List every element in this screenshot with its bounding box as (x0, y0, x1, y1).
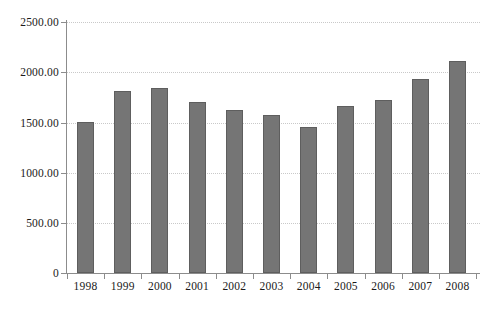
bar-chart: 2500.00 2000.00 1500.00 1000.00 500.00 0… (0, 0, 493, 312)
bar-2008 (449, 61, 466, 273)
x-tick-2003 (290, 274, 291, 279)
y-tick-1500 (61, 123, 67, 124)
bar-2003 (263, 115, 280, 273)
bar-2004 (300, 127, 317, 273)
x-axis-line (66, 273, 480, 274)
y-tick-500 (61, 223, 67, 224)
x-tick-2002 (253, 274, 254, 279)
x-tick-2008 (476, 274, 477, 279)
x-tick-2000 (179, 274, 180, 279)
bar-1999 (114, 91, 131, 273)
y-tick-label-1500: 1500.00 (1, 118, 59, 130)
bar-1998 (77, 122, 94, 273)
bar-2000 (151, 88, 168, 273)
y-axis-line (66, 20, 67, 274)
x-tick-1998 (104, 274, 105, 279)
y-tick-label-2500: 2500.00 (1, 17, 59, 29)
x-tick-2004 (327, 274, 328, 279)
x-tick-2001 (216, 274, 217, 279)
gridline-2500 (67, 22, 480, 23)
plot-area: 2500.00 2000.00 1500.00 1000.00 500.00 0… (0, 0, 493, 312)
y-tick-label-500: 500.00 (1, 218, 59, 230)
y-tick-2500 (61, 22, 67, 23)
bar-2002 (226, 110, 243, 273)
y-axis-tick-labels: 2500.00 2000.00 1500.00 1000.00 500.00 0 (0, 0, 59, 312)
y-tick-label-2000: 2000.00 (1, 67, 59, 79)
y-tick-1000 (61, 173, 67, 174)
y-tick-label-1000: 1000.00 (1, 168, 59, 180)
gridline-2000 (67, 72, 480, 73)
x-tick-2006 (402, 274, 403, 279)
x-tick-2005 (365, 274, 366, 279)
x-tick-2007 (439, 274, 440, 279)
bar-2007 (412, 79, 429, 273)
y-tick-2000 (61, 72, 67, 73)
x-tick-label-2008: 2008 (435, 281, 481, 293)
x-tick-1999 (141, 274, 142, 279)
bar-2006 (375, 100, 392, 273)
bar-2005 (337, 106, 354, 273)
x-tick-start (67, 274, 68, 279)
bar-2001 (189, 102, 206, 273)
y-tick-label-0: 0 (1, 268, 59, 280)
